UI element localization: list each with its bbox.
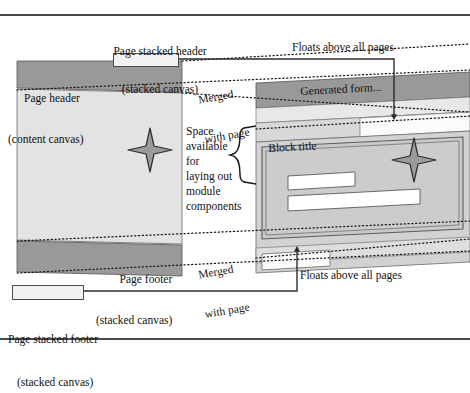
page-stacked-header-label-line1: Page stacked header xyxy=(60,45,260,58)
merged-top-line1: Merged xyxy=(197,87,244,107)
page-header-label-line1: Page header xyxy=(24,92,84,106)
page-stacked-footer-chip xyxy=(12,285,84,300)
page-footer-label: Page footer (stacked canvas) xyxy=(96,246,172,355)
page-header-label-line2: (content canvas) xyxy=(8,133,84,147)
page-footer-label-line1: Page footer xyxy=(96,273,172,287)
space-available-line-6: components xyxy=(186,199,242,214)
merged-bot-line2: with page xyxy=(204,301,251,321)
page-stacked-footer-label-line2: (stacked canvas) xyxy=(8,375,98,389)
merged-bot-line1: Merged xyxy=(197,262,244,282)
block-title-label: Block title xyxy=(268,139,317,155)
page-stacked-footer-label-line1: Page stacked footer xyxy=(8,332,98,346)
brace-tick-bottom xyxy=(244,182,256,184)
floats-above-top-label: Floats above all pages xyxy=(292,41,394,54)
merged-top-line2: with page xyxy=(204,126,251,146)
page-footer-label-line2: (stacked canvas) xyxy=(96,314,172,328)
floats-above-bottom-label: Floats above all pages xyxy=(300,269,402,282)
page-stacked-footer-label: Page stacked footer (stacked canvas) xyxy=(8,303,98,393)
right-page-plate xyxy=(256,72,470,273)
space-available-line-5: module xyxy=(186,184,242,199)
page-header-label: Page header (content canvas) xyxy=(24,65,84,174)
